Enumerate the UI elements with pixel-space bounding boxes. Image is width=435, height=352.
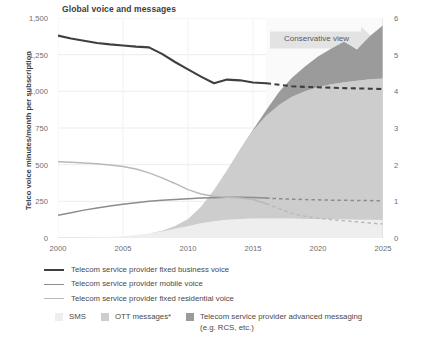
legend-item-area: SMS	[55, 312, 86, 323]
area-series	[58, 219, 383, 238]
y-axis-left-ticks: 02505007501,0001,2501,500	[0, 18, 54, 238]
legend-areas-group: SMSOTT messages*Telecom service provider…	[55, 312, 424, 333]
y-axis-left-tick-label: 750	[35, 124, 54, 133]
legend-line-swatch	[44, 269, 64, 271]
legend-item-area: Telecom service provider advanced messag…	[186, 312, 362, 333]
legend-area-sublabel: (e.g. RCS, etc.)	[200, 323, 362, 334]
legend-item-area: OTT messages*	[101, 312, 171, 323]
chart-container: Global voice and messages Telco voice mi…	[0, 0, 435, 352]
x-axis-tick-label: 2015	[245, 244, 262, 253]
x-axis-tick-label: 2010	[180, 244, 197, 253]
legend-item-line: Telecom service provider mobile voice	[44, 279, 424, 290]
x-axis-tick-label: 2000	[50, 244, 67, 253]
legend-item-line: Telecom service provider fixed business …	[44, 264, 424, 275]
legend-area-label: Telecom service provider advanced messag…	[200, 312, 362, 323]
plot-area	[58, 18, 383, 238]
legend-line-label: Telecom service provider mobile voice	[71, 279, 203, 289]
y-axis-left-tick-label: 1,500	[29, 14, 54, 23]
y-axis-right-tick-label: 3	[388, 124, 398, 133]
legend-area-swatch	[55, 313, 63, 321]
plot-svg	[58, 18, 383, 238]
area-series	[58, 79, 383, 239]
y-axis-left-tick-label: 500	[35, 160, 54, 169]
legend-area-swatch	[186, 313, 194, 321]
y-axis-left-tick-label: 1,250	[29, 50, 54, 59]
y-axis-left-tick-label: 1,000	[29, 87, 54, 96]
x-axis-tick-label: 2025	[375, 244, 392, 253]
annotation-conservative-view: Conservative view	[284, 34, 349, 43]
x-axis-ticks: 200020052010201520202025	[58, 244, 383, 258]
y-axis-right-tick-label: 5	[388, 50, 398, 59]
legend-line-swatch	[44, 284, 64, 285]
legend-line-label: Telecom service provider fixed business …	[71, 265, 229, 275]
legend-area-label: SMS	[69, 312, 86, 323]
legend-line-label: Telecom service provider fixed residenti…	[71, 294, 234, 304]
legend-lines-group: Telecom service provider fixed business …	[44, 264, 424, 304]
x-axis-tick-label: 2020	[310, 244, 327, 253]
y-axis-left-tick-label: 0	[44, 234, 54, 243]
y-axis-right-tick-label: 2	[388, 160, 398, 169]
legend-area-swatch	[101, 313, 109, 321]
y-axis-left-tick-label: 250	[35, 197, 54, 206]
chart-title: Global voice and messages	[62, 4, 176, 14]
y-axis-right-ticks: 0123456	[388, 18, 418, 238]
legend-area-label: OTT messages*	[115, 312, 171, 323]
legend-item-line: Telecom service provider fixed residenti…	[44, 293, 424, 304]
legend-line-swatch	[44, 298, 64, 299]
line-series-actual	[58, 36, 266, 84]
y-axis-right-tick-label: 6	[388, 14, 398, 23]
chart-legend: Telecom service provider fixed business …	[44, 264, 424, 333]
y-axis-right-tick-label: 1	[388, 197, 398, 206]
y-axis-right-tick-label: 0	[388, 234, 398, 243]
y-axis-right-tick-label: 4	[388, 87, 398, 96]
x-axis-tick-label: 2005	[115, 244, 132, 253]
